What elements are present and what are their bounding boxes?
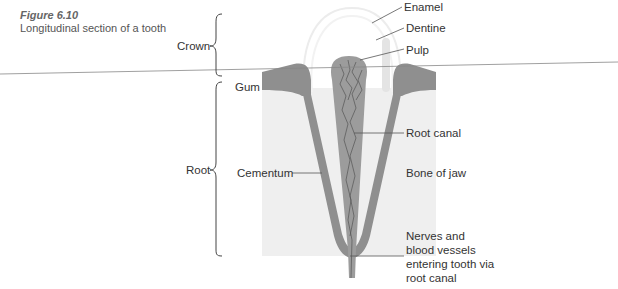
label-gum: Gum: [235, 80, 260, 94]
label-cementum: Cementum: [237, 166, 293, 180]
label-enamel: Enamel: [404, 0, 443, 14]
label-crown: Crown: [177, 39, 210, 53]
label-nerves: Nerves and blood vessels entering tooth …: [406, 229, 496, 285]
root-brace: [210, 82, 222, 256]
label-bone-of-jaw: Bone of jaw: [406, 166, 466, 180]
label-dentine: Dentine: [406, 21, 446, 35]
label-root-canal: Root canal: [406, 126, 461, 140]
label-pulp: Pulp: [406, 43, 429, 57]
tooth-diagram: [0, 0, 618, 289]
crown-brace: [210, 14, 222, 76]
label-root: Root: [186, 163, 210, 177]
dentine-highlight: [382, 38, 390, 92]
